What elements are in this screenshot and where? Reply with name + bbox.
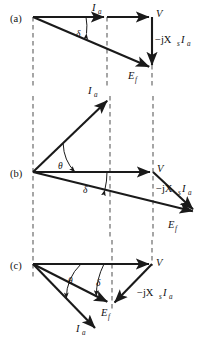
vector-ia-b bbox=[33, 101, 107, 172]
label-jxsia-i-c: I bbox=[162, 287, 167, 298]
label-jxsia-sub-a: s bbox=[177, 40, 180, 48]
angle-arc-theta-b bbox=[63, 144, 75, 172]
label-v-c: V bbox=[156, 257, 164, 268]
label-ef-sub-b: f bbox=[175, 225, 178, 233]
vector-ef-a bbox=[33, 17, 149, 67]
panel-b: (b) I a V −jX s I a E f θ δ bbox=[10, 85, 193, 238]
label-jxsia-isub-b: a bbox=[188, 189, 192, 197]
label-delta-b: δ bbox=[83, 185, 88, 195]
label-ef-b: E bbox=[167, 219, 175, 230]
label-jxsia-isub-c: a bbox=[169, 293, 173, 301]
angle-arc-delta-b bbox=[105, 172, 107, 190]
label-ia-a: I bbox=[91, 2, 96, 13]
label-delta-c: δ bbox=[96, 278, 101, 288]
label-ia-b: I bbox=[87, 85, 92, 96]
label-jxsia-a: −jX bbox=[155, 34, 172, 45]
label-delta-a: δ bbox=[76, 29, 81, 39]
label-ef-a: E bbox=[127, 70, 135, 81]
label-ia-sub-a: a bbox=[98, 8, 102, 16]
label-ia-sub-b: a bbox=[94, 91, 98, 99]
label-theta-b: θ bbox=[58, 161, 63, 171]
label-jxsia-isub-a: a bbox=[187, 40, 191, 48]
label-jxsia-c: −jX bbox=[137, 287, 154, 298]
label-ia-sub-c: a bbox=[82, 329, 86, 337]
label-jxsia-sub-c: s bbox=[159, 293, 162, 301]
phasor-diagram-svg: (a) I a V −jX s I a E f δ bbox=[0, 0, 209, 343]
panel-a: (a) I a V −jX s I a E f δ bbox=[10, 2, 191, 88]
panel-label-c: (c) bbox=[10, 260, 22, 272]
label-jxsia-b: −jX bbox=[156, 183, 173, 194]
label-ef-sub-a: f bbox=[135, 76, 138, 84]
label-jxsia-i-b: I bbox=[181, 183, 186, 194]
label-v-a: V bbox=[156, 8, 164, 19]
vector-ia-c bbox=[33, 264, 95, 328]
label-jxsia-sub-b: s bbox=[178, 189, 181, 197]
label-v-b: V bbox=[157, 163, 165, 174]
label-jxsia-i-a: I bbox=[180, 34, 185, 45]
label-ia-c: I bbox=[75, 323, 80, 334]
label-theta-c: θ bbox=[68, 276, 73, 286]
phasor-diagram-figure: (a) I a V −jX s I a E f δ bbox=[0, 0, 209, 343]
panel-label-b: (b) bbox=[10, 168, 23, 180]
label-ef-sub-c: f bbox=[108, 313, 111, 321]
panel-c: (c) V −jX s I a E f I a θ δ bbox=[10, 240, 173, 337]
label-ef-c: E bbox=[100, 307, 108, 318]
panel-label-a: (a) bbox=[10, 13, 22, 25]
angle-arc-delta-a bbox=[86, 17, 87, 34]
